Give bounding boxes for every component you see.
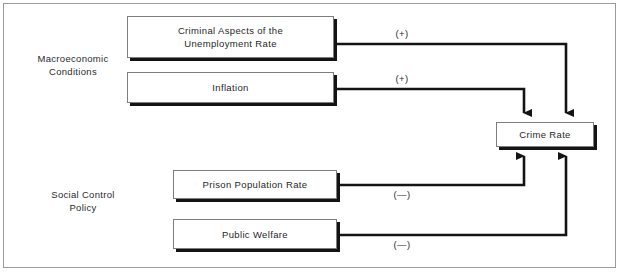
group-label-macroeconomic: Macroeconomic Conditions <box>18 52 128 78</box>
node-unemployment[interactable]: Criminal Aspects of the Unemployment Rat… <box>127 16 334 58</box>
node-public-welfare-label: Public Welfare <box>222 228 288 241</box>
node-public-welfare[interactable]: Public Welfare <box>173 219 337 249</box>
edge-inflation-to-crime <box>337 89 524 113</box>
edge-unemployment-to-crime <box>337 44 566 113</box>
edge-welfare-to-crime <box>340 156 566 235</box>
node-crime-rate[interactable]: Crime Rate <box>496 122 594 147</box>
edge-sign-prison: (—) <box>380 189 424 200</box>
edge-sign-inflation: (+) <box>380 73 424 84</box>
group-label-social-control: Social Control Policy <box>28 188 138 214</box>
node-prison-population-label: Prison Population Rate <box>203 178 308 191</box>
node-unemployment-label: Criminal Aspects of the Unemployment Rat… <box>178 24 283 50</box>
node-inflation[interactable]: Inflation <box>127 72 334 103</box>
node-inflation-label: Inflation <box>212 81 248 94</box>
edge-sign-welfare: (—) <box>380 239 424 250</box>
node-prison-population[interactable]: Prison Population Rate <box>173 170 337 199</box>
edge-prison-to-crime <box>340 156 524 185</box>
node-crime-rate-label: Crime Rate <box>519 128 571 141</box>
edge-sign-unemployment: (+) <box>380 28 424 39</box>
causal-diagram-figure: Macroeconomic Conditions Social Control … <box>0 0 620 272</box>
